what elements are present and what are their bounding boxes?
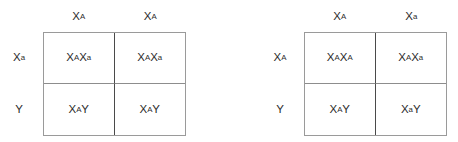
row-headers-left: Xa Y bbox=[0, 32, 38, 136]
cell-right-r1c1: XAXA bbox=[305, 33, 376, 84]
row-headers-right: XA Y bbox=[261, 32, 299, 136]
cell-left-r1c2: XAXa bbox=[115, 33, 186, 84]
row-header-right-1: XA bbox=[261, 32, 299, 84]
cell-left-r2c1: XAY bbox=[44, 84, 115, 135]
row-header-left-1: Xa bbox=[0, 32, 38, 84]
column-headers-right: XA Xa bbox=[304, 8, 447, 26]
grid-right: XAXA XAXa XAY XaY bbox=[304, 32, 447, 136]
punnett-square-diagram: XA XA Xa Y XAXa XAXa XAY XAY XA Xa XA Y … bbox=[0, 0, 458, 142]
cell-left-r1c1: XAXa bbox=[44, 33, 115, 84]
punnett-square-left: XA XA Xa Y XAXa XAXa XAY XAY bbox=[0, 0, 190, 142]
column-header-left-2: XA bbox=[115, 8, 187, 26]
grid-left: XAXa XAXa XAY XAY bbox=[43, 32, 186, 136]
punnett-square-right: XA Xa XA Y XAXA XAXa XAY XaY bbox=[261, 0, 451, 142]
column-header-right-2: Xa bbox=[376, 8, 448, 26]
column-header-right-1: XA bbox=[304, 8, 376, 26]
column-header-left-1: XA bbox=[43, 8, 115, 26]
cell-right-r2c1: XAY bbox=[305, 84, 376, 135]
cell-left-r2c2: XAY bbox=[115, 84, 186, 135]
row-header-left-2: Y bbox=[0, 84, 38, 136]
cell-right-r2c2: XaY bbox=[376, 84, 447, 135]
cell-right-r1c2: XAXa bbox=[376, 33, 447, 84]
row-header-right-2: Y bbox=[261, 84, 299, 136]
column-headers-left: XA XA bbox=[43, 8, 186, 26]
